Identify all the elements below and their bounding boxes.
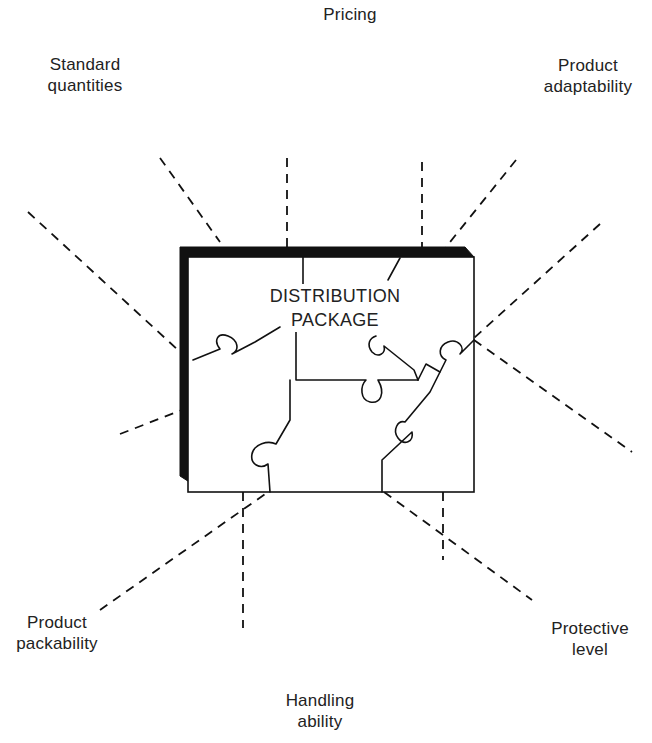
- label-standard-quantities-line1: Standard: [20, 54, 150, 75]
- center-label: DISTRIBUTION PACKAGE: [240, 284, 430, 332]
- label-product-packability-line1: Product: [2, 612, 112, 633]
- label-product-packability-line2: packability: [2, 633, 112, 654]
- center-label-line1: DISTRIBUTION: [268, 284, 403, 308]
- label-product-adaptability: Product adaptability: [528, 55, 648, 97]
- label-product-packability: Product packability: [2, 612, 112, 654]
- center-label-line2: PACKAGE: [289, 308, 381, 332]
- label-handling-ability-line1: Handling: [270, 690, 370, 711]
- label-protective-level-line1: Protective: [540, 618, 640, 639]
- label-handling-ability-line2: ability: [270, 711, 370, 732]
- label-pricing: Pricing: [300, 4, 400, 25]
- label-handling-ability: Handling ability: [270, 690, 370, 732]
- label-pricing-line1: Pricing: [300, 4, 400, 25]
- label-standard-quantities: Standard quantities: [20, 54, 150, 96]
- label-product-adaptability-line2: adaptability: [528, 76, 648, 97]
- label-product-adaptability-line1: Product: [528, 55, 648, 76]
- label-standard-quantities-line2: quantities: [20, 75, 150, 96]
- label-protective-level: Protective level: [540, 618, 640, 660]
- label-protective-level-line2: level: [540, 639, 640, 660]
